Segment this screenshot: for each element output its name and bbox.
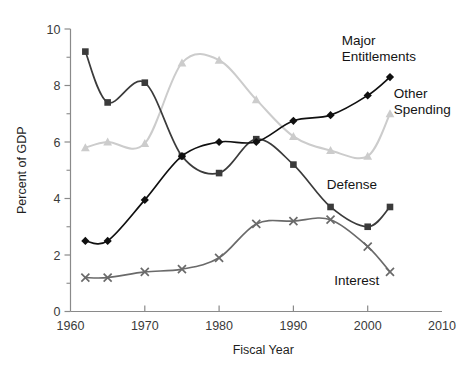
y-tick-label: 8 (54, 79, 61, 93)
y-tick-label: 0 (54, 305, 61, 319)
data-point-marker (327, 204, 334, 211)
data-point-marker (104, 99, 111, 106)
series-label-defense: Defense (327, 177, 377, 192)
chart-figure: 0246810196019701980199020002010Fiscal Ye… (0, 0, 472, 378)
x-axis-title: Fiscal Year (233, 343, 294, 357)
series-line (85, 77, 390, 244)
data-point-marker (81, 237, 89, 245)
data-point-marker (289, 117, 297, 125)
series-line (85, 218, 390, 278)
data-point-marker (326, 111, 334, 119)
y-tick-label: 2 (54, 249, 61, 263)
data-point-marker (82, 48, 89, 55)
x-tick-label: 1970 (131, 319, 159, 333)
data-point-marker (215, 138, 223, 146)
y-tick-label: 10 (47, 23, 61, 37)
data-point-marker (290, 161, 297, 168)
y-tick-label: 4 (54, 192, 61, 206)
y-axis-title: Percent of GDP (15, 126, 29, 214)
data-point-marker (364, 243, 372, 251)
series-defense (82, 48, 393, 230)
series-label-interest: Interest (334, 273, 379, 288)
data-point-marker (364, 223, 371, 230)
data-point-marker (216, 170, 223, 177)
x-tick-label: 2000 (354, 319, 382, 333)
data-point-marker (386, 268, 394, 276)
chart-plot-area: 0246810196019701980199020002010Fiscal Ye… (0, 0, 472, 378)
x-tick-label: 1980 (205, 319, 233, 333)
data-point-marker (215, 254, 223, 262)
x-tick-label: 1990 (279, 319, 307, 333)
y-tick-label: 6 (54, 136, 61, 150)
data-point-marker (387, 204, 394, 211)
series-label-other-spending: OtherSpending (394, 86, 451, 117)
data-point-marker (142, 79, 149, 86)
data-point-marker (252, 220, 260, 228)
x-tick-label: 2010 (428, 319, 456, 333)
x-tick-label: 1960 (57, 319, 85, 333)
series-label-major-entitlements: MajorEntitlements (342, 33, 417, 64)
